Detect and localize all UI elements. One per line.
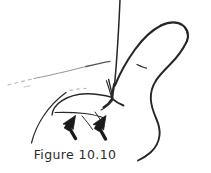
- figure-caption: Figure 10.10: [0, 147, 150, 162]
- figure-panel: Figure 10.10: [0, 0, 211, 173]
